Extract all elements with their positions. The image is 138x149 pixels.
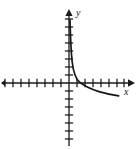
y-axis-arrowhead-top bbox=[65, 9, 72, 16]
y-axis-group bbox=[65, 9, 73, 146]
x-axis-arrowhead-right bbox=[128, 79, 135, 87]
coordinate-plane bbox=[0, 0, 138, 149]
x-axis-group bbox=[1, 79, 135, 87]
x-axis-label: x bbox=[124, 87, 128, 97]
graph-figure: y x bbox=[0, 0, 138, 149]
y-axis-label: y bbox=[76, 8, 80, 18]
